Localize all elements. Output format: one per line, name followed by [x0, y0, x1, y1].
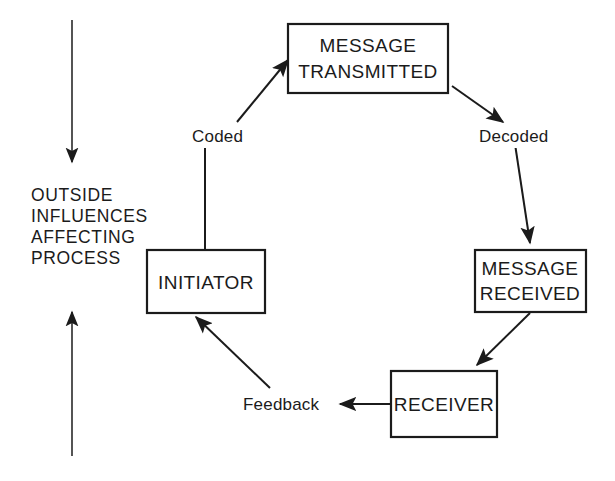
outside-influences-line-3: AFFECTING	[31, 227, 136, 247]
communication-process-diagram: OUTSIDE INFLUENCES AFFECTING PROCESS	[0, 0, 615, 481]
arrow-decoded-to-message-received	[515, 144, 530, 243]
arrow-coded-to-message-transmitted	[237, 60, 288, 122]
outside-influences-group: OUTSIDE INFLUENCES AFFECTING PROCESS	[31, 20, 148, 456]
message-received-label-line-1: MESSAGE	[482, 258, 579, 279]
edge-label-feedback: Feedback	[243, 395, 320, 414]
node-message-received[interactable]: MESSAGE RECEIVED	[475, 250, 586, 312]
message-received-label-line-2: RECEIVED	[480, 283, 580, 304]
arrow-feedback-to-initiator	[196, 317, 270, 388]
arrow-message-transmitted-to-decoded	[452, 86, 503, 122]
arrow-message-received-to-receiver	[477, 313, 530, 365]
outside-influences-line-4: PROCESS	[31, 248, 121, 268]
outside-influences-line-1: OUTSIDE	[31, 185, 113, 205]
node-initiator[interactable]: INITIATOR	[147, 250, 265, 313]
node-receiver[interactable]: RECEIVER	[391, 371, 497, 437]
node-message-transmitted[interactable]: MESSAGE TRANSMITTED	[288, 24, 448, 93]
receiver-label: RECEIVER	[394, 394, 494, 415]
outside-influences-line-2: INFLUENCES	[31, 206, 148, 226]
flow-arrows-group	[196, 60, 530, 404]
message-transmitted-label-line-2: TRANSMITTED	[298, 61, 438, 82]
edge-label-coded: Coded	[192, 127, 243, 146]
initiator-label: INITIATOR	[158, 272, 254, 293]
diagram-canvas: OUTSIDE INFLUENCES AFFECTING PROCESS	[0, 0, 615, 481]
edge-label-decoded: Decoded	[479, 127, 548, 146]
message-transmitted-label-line-1: MESSAGE	[320, 35, 417, 56]
